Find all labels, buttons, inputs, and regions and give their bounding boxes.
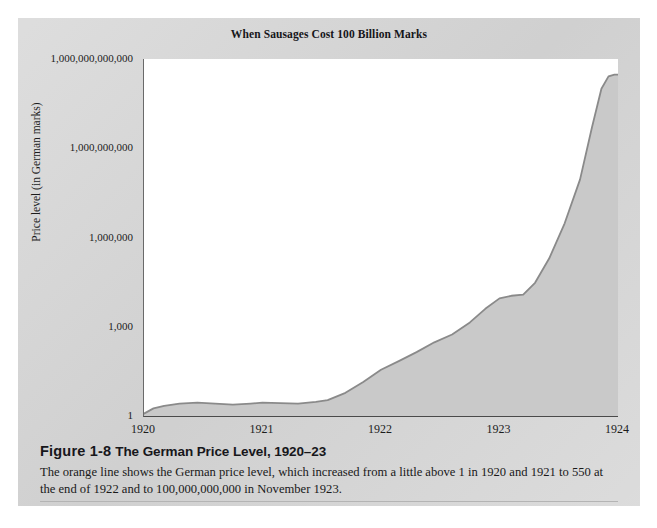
- series-area-fill: [144, 75, 618, 416]
- figure-number: Figure 1-8: [40, 443, 111, 459]
- x-tick-label: 1923: [475, 423, 523, 435]
- x-tick-label: 1921: [238, 423, 286, 435]
- caption-heading: Figure 1-8The German Price Level, 1920–2…: [40, 443, 620, 459]
- price-level-area-chart: [144, 59, 618, 416]
- x-tick-label: 1924: [593, 423, 641, 435]
- chart-title: When Sausages Cost 100 Billion Marks: [18, 28, 640, 40]
- caption-body: The orange line shows the German price l…: [40, 464, 620, 499]
- figure-panel: When Sausages Cost 100 Billion Marks Pri…: [18, 18, 640, 506]
- figure-caption: Figure 1-8The German Price Level, 1920–2…: [40, 443, 620, 499]
- plot-area: [143, 59, 618, 417]
- y-tick-label: 1,000,000: [18, 232, 133, 243]
- x-tick-label: 1920: [119, 423, 167, 435]
- caption-divider: [40, 501, 618, 502]
- y-tick-label: 1: [18, 410, 133, 421]
- x-tick-label: 1922: [356, 423, 404, 435]
- y-tick-label: 1,000,000,000: [18, 142, 133, 153]
- y-tick-label: 1,000,000,000,000: [18, 53, 133, 64]
- y-tick-label: 1,000: [18, 321, 133, 332]
- caption-title: The German Price Level, 1920–23: [115, 444, 326, 459]
